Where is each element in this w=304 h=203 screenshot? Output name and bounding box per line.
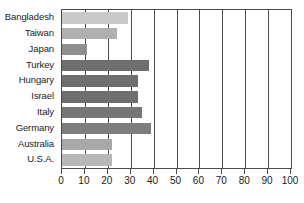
category-label: Germany <box>0 120 57 136</box>
plot-area <box>61 9 292 169</box>
category-label: Australia <box>0 135 57 151</box>
bar[interactable] <box>62 107 142 118</box>
bar[interactable] <box>62 75 138 86</box>
bar[interactable] <box>62 123 151 134</box>
bar-row <box>62 121 291 137</box>
axis-tick <box>176 168 177 174</box>
category-label: Turkey <box>0 56 57 72</box>
axis-tick-label: 20 <box>101 176 112 186</box>
axis-tick <box>198 168 199 174</box>
bar[interactable] <box>62 139 112 150</box>
axis-tick <box>107 168 108 174</box>
category-label: U.S.A. <box>0 151 57 167</box>
bar[interactable] <box>62 12 128 23</box>
bars-container <box>62 10 291 168</box>
axis-tick-label: 40 <box>147 176 158 186</box>
axis-tick <box>221 168 222 174</box>
axis-tick-label: 100 <box>282 176 299 186</box>
bar[interactable] <box>62 44 87 55</box>
bar-row <box>62 26 291 42</box>
category-axis-labels: BangladeshTaiwanJapanTurkeyHungaryIsrael… <box>0 9 57 167</box>
axis-tick <box>244 168 245 174</box>
bar-row <box>62 105 291 121</box>
category-label: Taiwan <box>0 25 57 41</box>
axis-tick-label: 90 <box>262 176 273 186</box>
axis-tick <box>84 168 85 174</box>
axis-tick-label: 10 <box>78 176 89 186</box>
category-label: Israel <box>0 88 57 104</box>
bar[interactable] <box>62 28 117 39</box>
bar-row <box>62 152 291 168</box>
bar-row <box>62 89 291 105</box>
bar-row <box>62 42 291 58</box>
bar[interactable] <box>62 60 149 71</box>
axis-tick-label: 30 <box>124 176 135 186</box>
axis-tick <box>267 168 268 174</box>
axis-tick-label: 80 <box>239 176 250 186</box>
bar-row <box>62 10 291 26</box>
axis-tick <box>153 168 154 174</box>
bar-row <box>62 73 291 89</box>
axis-tick-label: 70 <box>216 176 227 186</box>
value-axis: 0102030405060708090100 <box>61 168 292 203</box>
bar[interactable] <box>62 91 138 102</box>
category-label: Bangladesh <box>0 9 57 25</box>
axis-tick-label: 50 <box>170 176 181 186</box>
bar-chart: BangladeshTaiwanJapanTurkeyHungaryIsrael… <box>0 0 304 203</box>
category-label: Hungary <box>0 72 57 88</box>
category-label: Italy <box>0 104 57 120</box>
axis-tick-label: 0 <box>58 176 64 186</box>
axis-tick <box>130 168 131 174</box>
category-label: Japan <box>0 41 57 57</box>
axis-tick-label: 60 <box>193 176 204 186</box>
bar[interactable] <box>62 154 112 165</box>
bar-row <box>62 136 291 152</box>
axis-tick <box>61 168 62 174</box>
bar-row <box>62 57 291 73</box>
axis-tick <box>290 168 291 174</box>
